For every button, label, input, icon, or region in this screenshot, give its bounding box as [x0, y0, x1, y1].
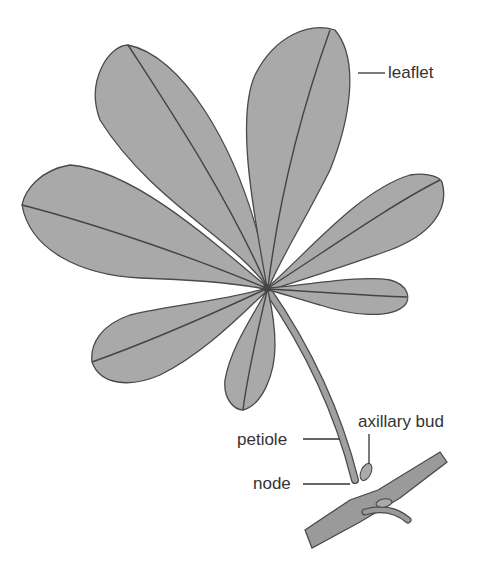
compound-leaf-diagram — [0, 0, 492, 565]
petiole-shape — [267, 289, 355, 480]
axillary-bud-shape — [358, 462, 375, 483]
petiole-label: petiole — [237, 431, 287, 448]
axillary-bud-label: axillary bud — [358, 413, 444, 430]
leaflet-attachment-point — [263, 284, 271, 292]
node-label: node — [253, 475, 291, 492]
leaflets — [22, 28, 444, 410]
leaflet-label: leaflet — [388, 64, 433, 81]
stem-branch — [305, 452, 447, 548]
